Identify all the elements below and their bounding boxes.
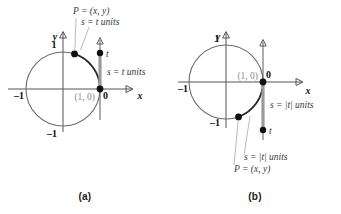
panel-b-diagram: 1 –1 –1 y x (1, 0) 0 t s = |t| units s =…	[170, 0, 340, 214]
coordinate-label-a: (1, 0)	[74, 92, 95, 103]
y-axis-a	[60, 32, 67, 133]
point-t-b	[260, 127, 266, 133]
point-p-b	[235, 114, 242, 121]
point-p-label-a: P = (x, y)	[72, 6, 109, 17]
zero-marker-a: 0	[103, 90, 108, 101]
x-tick-left-a: –1	[13, 90, 24, 101]
zero-marker-b: 0	[266, 69, 271, 80]
leader-p-a	[75, 19, 76, 52]
panel-a: 1 –1 –1 y x (1, 0) 0 t P = (x, y) s = t …	[0, 0, 170, 214]
x-axis-label-b: x	[305, 85, 311, 96]
point-t-a	[97, 50, 103, 56]
x-axis-a	[8, 86, 133, 93]
point-p-a	[71, 51, 78, 58]
t-marker-a: t	[106, 49, 109, 59]
highlight-arc-b	[239, 82, 264, 117]
panel-a-caption: (a)	[0, 191, 170, 202]
t-marker-b: t	[269, 126, 272, 136]
segment-length-label-b: s = |t| units	[270, 100, 314, 110]
coordinate-label-b: (1, 0)	[237, 71, 258, 82]
panel-b-caption: (b)	[170, 191, 340, 202]
y-axis-b	[223, 32, 230, 129]
leader-arc-a	[81, 27, 90, 50]
y-axis-label-a: y	[52, 31, 58, 42]
figure-unit-circle-number-line: 1 –1 –1 y x (1, 0) 0 t P = (x, y) s = t …	[0, 0, 341, 214]
leader-arc-b	[244, 116, 250, 155]
panel-a-diagram: 1 –1 –1 y x (1, 0) 0 t P = (x, y) s = t …	[0, 0, 170, 214]
point-p-label-b: P = (x, y)	[233, 164, 270, 175]
panel-b: 1 –1 –1 y x (1, 0) 0 t s = |t| units s =…	[170, 0, 340, 214]
arc-length-label-b: s = |t| units	[244, 152, 288, 162]
x-tick-left-b: –1	[177, 83, 188, 94]
highlight-arc-a	[75, 54, 101, 89]
segment-length-label-a: s = t units	[107, 67, 146, 77]
x-axis-label-a: x	[137, 90, 143, 101]
leader-p-b	[234, 120, 238, 165]
y-axis-label-b: y	[215, 31, 221, 42]
y-tick-bottom-b: –1	[209, 117, 220, 128]
y-tick-bottom-a: –1	[46, 128, 57, 139]
arc-length-label-a: s = t units	[81, 17, 120, 27]
